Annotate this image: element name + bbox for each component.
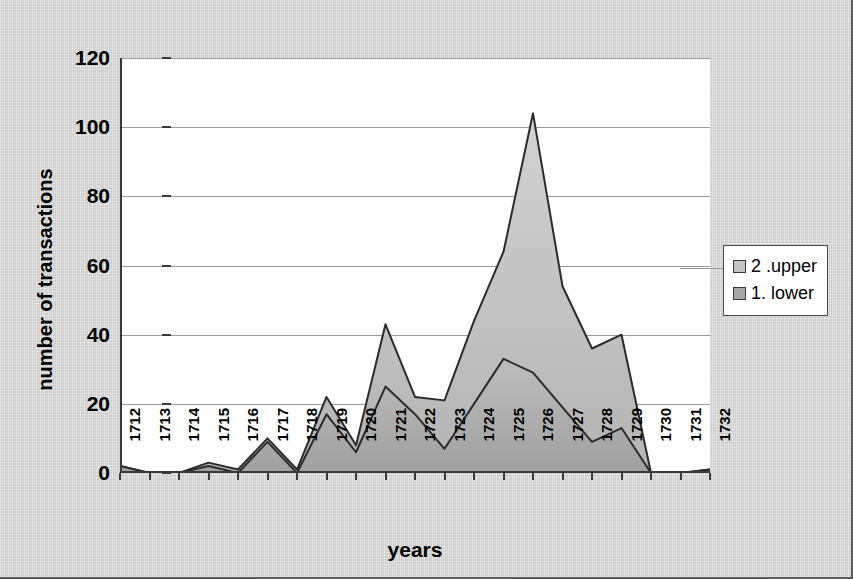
x-tick-mark-1715 xyxy=(208,473,210,480)
x-tick-label-1731: 1731 xyxy=(687,408,704,478)
y-axis-title: number of transactions xyxy=(34,130,57,430)
x-tick-label-1723: 1723 xyxy=(451,408,468,478)
x-tick-label-1717: 1717 xyxy=(274,408,291,478)
y-tick-label-0: 0 xyxy=(58,462,110,483)
x-tick-label-1727: 1727 xyxy=(569,408,586,478)
x-tick-label-1716: 1716 xyxy=(244,408,261,478)
y-tick-mark-20 xyxy=(162,403,171,405)
y-tick-label-80: 80 xyxy=(58,185,110,206)
x-tick-mark-1724 xyxy=(473,473,475,480)
legend-label: 1. lower xyxy=(751,283,814,304)
x-tick-mark-1723 xyxy=(444,473,446,480)
legend-label: 2 .upper xyxy=(751,256,817,277)
chart-legend: 2 .upper1. lower xyxy=(723,245,828,316)
x-tick-mark-1727 xyxy=(562,473,564,480)
x-tick-mark-1731 xyxy=(680,473,682,480)
x-tick-mark-1719 xyxy=(326,473,328,480)
x-tick-label-1722: 1722 xyxy=(421,408,438,478)
legend-swatch-icon xyxy=(733,260,746,273)
x-tick-mark-1725 xyxy=(503,473,505,480)
x-tick-mark-1728 xyxy=(591,473,593,480)
x-tick-label-1729: 1729 xyxy=(628,408,645,478)
x-tick-mark-1732 xyxy=(709,473,711,480)
x-tick-mark-1713 xyxy=(149,473,151,480)
x-tick-mark-1721 xyxy=(385,473,387,480)
x-tick-mark-1716 xyxy=(237,473,239,480)
chart-canvas: 020406080100120 number of transactions 1… xyxy=(0,0,853,579)
x-axis-title: years xyxy=(120,538,710,562)
x-tick-label-1730: 1730 xyxy=(657,408,674,478)
y-tick-label-60: 60 xyxy=(58,255,110,276)
legend-item-1[interactable]: 2 .upper xyxy=(733,253,817,280)
y-tick-mark-120 xyxy=(162,57,171,59)
y-tick-mark-40 xyxy=(162,334,171,336)
x-tick-label-1724: 1724 xyxy=(480,408,497,478)
x-tick-mark-1717 xyxy=(267,473,269,480)
x-tick-mark-1718 xyxy=(296,473,298,480)
y-tick-label-20: 20 xyxy=(58,393,110,414)
x-tick-label-1714: 1714 xyxy=(185,408,202,478)
y-tick-mark-80 xyxy=(162,195,171,197)
x-tick-mark-1730 xyxy=(650,473,652,480)
y-tick-label-100: 100 xyxy=(58,116,110,137)
y-tick-label-120: 120 xyxy=(58,47,110,68)
x-tick-label-1712: 1712 xyxy=(126,408,143,478)
x-tick-label-1732: 1732 xyxy=(716,408,733,478)
x-tick-mark-1712 xyxy=(119,473,121,480)
y-tick-mark-60 xyxy=(162,265,171,267)
x-tick-mark-1726 xyxy=(532,473,534,480)
x-tick-label-1715: 1715 xyxy=(215,408,232,478)
legend-swatch-icon xyxy=(733,287,746,300)
y-tick-label-40: 40 xyxy=(58,324,110,345)
x-tick-label-1728: 1728 xyxy=(598,408,615,478)
stacked-area-series xyxy=(120,58,710,473)
x-tick-mark-1720 xyxy=(355,473,357,480)
y-axis-ticks: 020406080100120 xyxy=(50,0,110,579)
legend-item-2[interactable]: 1. lower xyxy=(733,280,817,307)
x-tick-label-1720: 1720 xyxy=(362,408,379,478)
x-tick-mark-1722 xyxy=(414,473,416,480)
x-tick-label-1726: 1726 xyxy=(539,408,556,478)
x-tick-label-1721: 1721 xyxy=(392,408,409,478)
legend-connector-line xyxy=(680,268,724,269)
x-tick-label-1725: 1725 xyxy=(510,408,527,478)
x-tick-mark-1714 xyxy=(178,473,180,480)
x-tick-mark-1729 xyxy=(621,473,623,480)
y-tick-mark-100 xyxy=(162,126,171,128)
x-tick-label-1713: 1713 xyxy=(156,408,173,478)
x-tick-label-1718: 1718 xyxy=(303,408,320,478)
x-tick-label-1719: 1719 xyxy=(333,408,350,478)
